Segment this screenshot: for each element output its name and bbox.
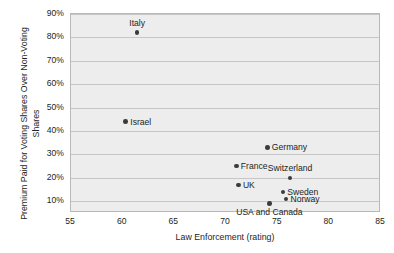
x-axis-tick: 60: [102, 217, 142, 226]
data-point-label: USA and Canada: [236, 208, 302, 217]
data-point: [234, 164, 239, 169]
y-axis-tick: 70%: [0, 56, 64, 65]
data-point: [281, 190, 286, 195]
gridline: [71, 37, 379, 38]
data-point: [135, 30, 140, 35]
plot-area: ItalyIsraelGermanyFranceSwitzerlandUKSwe…: [70, 13, 380, 212]
x-axis-tick: 55: [50, 217, 90, 226]
x-axis-label: Law Enforcement (rating): [70, 232, 380, 242]
data-point-label: UK: [243, 181, 255, 190]
scatter-chart: Premium Paid for Voting Shares Over Non-…: [0, 0, 394, 253]
x-axis-tick: 80: [308, 217, 348, 226]
data-point: [267, 201, 272, 206]
gridline: [71, 84, 379, 85]
gridline: [71, 178, 379, 179]
data-point: [265, 145, 270, 150]
data-point-label: Switzerland: [268, 165, 312, 174]
x-axis-tick: 75: [257, 217, 297, 226]
gridline: [71, 61, 379, 62]
data-point: [236, 183, 241, 188]
gridline: [71, 131, 379, 132]
x-axis-tick: 70: [205, 217, 245, 226]
y-axis-tick-labels: 10%20%30%40%50%60%70%80%90%: [0, 0, 66, 253]
x-axis-tick: 65: [153, 217, 193, 226]
y-axis-tick: 80%: [0, 32, 64, 41]
y-axis-tick: 50%: [0, 102, 64, 111]
y-axis-tick: 20%: [0, 173, 64, 182]
y-axis-tick: 30%: [0, 149, 64, 158]
data-point-label: France: [241, 162, 268, 171]
data-point-label: Germany: [272, 143, 307, 152]
gridline: [71, 154, 379, 155]
x-axis-tick: 85: [360, 217, 394, 226]
y-axis-tick: 10%: [0, 196, 64, 205]
data-point-label: Italy: [129, 20, 145, 29]
data-point: [288, 176, 293, 181]
y-axis-tick: 90%: [0, 9, 64, 18]
y-axis-tick: 60%: [0, 79, 64, 88]
data-point: [123, 119, 128, 124]
gridline: [71, 108, 379, 109]
data-point-label: Israel: [130, 117, 151, 126]
gridline: [71, 14, 379, 15]
data-point-label: Norway: [290, 195, 319, 204]
y-axis-tick: 40%: [0, 126, 64, 135]
gridline: [71, 201, 379, 202]
